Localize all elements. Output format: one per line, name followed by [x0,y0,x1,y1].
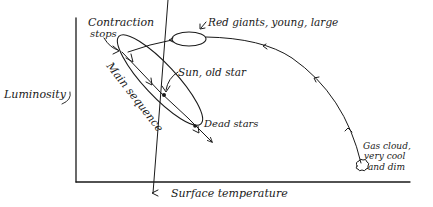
sun-dot [162,93,166,97]
gas-cloud-label-2: very cool [364,151,406,161]
left-arrow-icon [153,0,168,193]
stops-label: stops [90,28,117,39]
red-giant-pointer [201,22,206,28]
evolution-track [128,37,361,163]
gas-cloud-label-1: Gas cloud, [363,141,411,151]
x-axis-label: Surface temperature [171,187,288,200]
x-axis-label-group: Surface temperature [152,0,288,200]
dead-stars-label: Dead stars [203,118,259,129]
main-sequence-label: Main sequence [103,59,166,135]
dead-star-dot [193,124,197,128]
red-giants-label: Red giants, young, large [207,16,338,28]
gas-cloud-label-3: and dim [368,162,405,172]
stellar-evolution-diagram: Luminosity Surface temperature Contracti… [0,0,433,207]
track-arrow-2 [146,78,152,85]
red-giant-ellipse [172,32,206,46]
track-arrow-gas [345,128,352,132]
y-axis-label: Luminosity [3,88,67,101]
sun-label: Sun, old star [178,66,247,78]
